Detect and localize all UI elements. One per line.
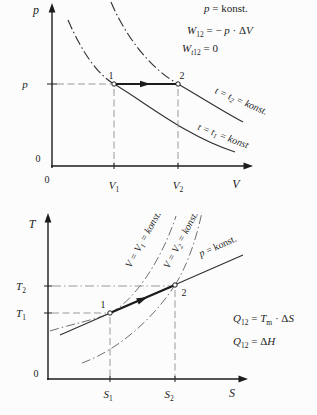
ts-isochore-v2-label: V = V2 = konst. [161, 210, 202, 272]
ts-zero-label: 0 [34, 368, 39, 379]
ts-equation-q12-dh: Q12 = ΔH [233, 335, 276, 350]
ts-diagram: T S 0 T2 T1 1 2 S1 S2 V = V1 = konst. V … [16, 209, 294, 402]
ts-isochore-v1-lower [50, 313, 110, 331]
ts-t1-tick-label: T1 [16, 307, 26, 322]
textbook-figure: p V 0 0 p 1 2 V1 V2 t = t2 = konst. t = … [0, 0, 317, 415]
ts-y-axis-label: T [29, 217, 37, 231]
pv-zero-x-label: 0 [45, 174, 50, 185]
pv-zero-y-label: 0 [36, 153, 41, 164]
ts-t2-tick-label: T2 [16, 280, 26, 295]
pv-v2-tick-label: V2 [173, 179, 184, 194]
pv-equation-wt12: Wt12 = 0 [182, 42, 218, 57]
pv-point-1-label: 1 [109, 70, 114, 81]
pv-x-axis-label: V [232, 177, 241, 191]
pv-equation-p-konst: p = konst. [203, 2, 248, 14]
pv-equation-w12: W12 = − p · ΔV [187, 24, 254, 39]
ts-point-1-label: 1 [101, 299, 106, 310]
thermodynamics-diagrams: p V 0 0 p 1 2 V1 V2 t = t2 = konst. t = … [0, 0, 317, 415]
pv-y-axis-label: p [32, 3, 39, 17]
pv-point-2 [176, 82, 180, 86]
pv-isotherm-t2-upper [111, 2, 178, 84]
ts-isobar-label: p = konst. [196, 233, 238, 260]
ts-point-1 [108, 311, 112, 315]
ts-y-axis-arrow-icon [45, 213, 52, 223]
ts-s2-tick-label: S2 [164, 388, 174, 403]
pv-x-axis-arrow-icon [244, 163, 254, 170]
ts-point-2-label: 2 [182, 287, 187, 298]
pv-v1-tick-label: V1 [109, 179, 120, 194]
ts-point-2 [173, 283, 177, 287]
ts-s1-tick-label: S1 [103, 388, 113, 403]
pv-point-2-label: 2 [180, 70, 185, 81]
pv-isotherm-t1-upper [68, 20, 114, 84]
pv-p-tick-label: p [21, 78, 28, 90]
ts-isochore-v1-label: V = V1 = konst. [123, 209, 165, 270]
ts-isochore-v2-lower [82, 285, 175, 363]
pv-diagram: p V 0 0 p 1 2 V1 V2 t = t2 = konst. t = … [21, 2, 269, 194]
ts-equation-q12-tm: Q12 = Tm · ΔS [233, 312, 294, 327]
pv-point-1 [112, 82, 116, 86]
ts-process-arrow-icon [136, 294, 148, 304]
ts-x-axis-label: S [229, 386, 235, 400]
pv-isotherm-t2-label: t = t2 = konst. [213, 85, 270, 119]
pv-process-arrow-icon [140, 81, 151, 88]
ts-x-axis-arrow-icon [239, 376, 249, 383]
pv-y-axis-arrow-icon [49, 3, 56, 13]
